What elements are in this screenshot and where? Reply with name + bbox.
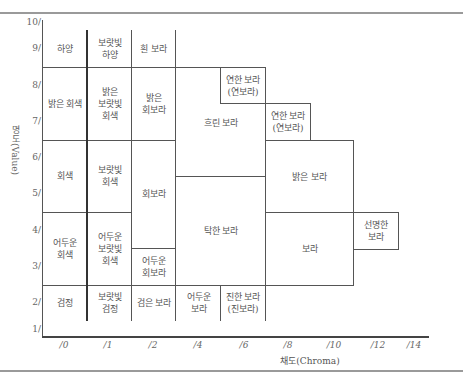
y-tick: 5/ — [14, 188, 41, 198]
x-tick: /8 — [284, 340, 293, 350]
cell-pale-purple-1: 연한 보라 (연보라) — [220, 67, 266, 104]
cell-white: 하양 — [43, 30, 87, 68]
cell-dark-gray: 어두운 회색 — [43, 212, 87, 286]
cell-light-gray: 밝은 회색 — [43, 67, 87, 141]
x-tick: /0 — [60, 340, 69, 350]
cell-light-purple: 밝은 보라 — [265, 140, 354, 213]
cell-whitish-purple: 흰 보라 — [131, 30, 176, 68]
cell-deep-purple: 진한 보라 (진보라) — [220, 285, 266, 321]
y-axis-label: 명도(Value) — [9, 125, 22, 175]
x-tick: /4 — [194, 340, 203, 350]
cell-blackish-purple: 검은 보라 — [131, 285, 176, 321]
y-tick: 7/ — [14, 116, 41, 126]
cell-light-purplish-gray: 밝은 보랏빛 회색 — [86, 67, 131, 141]
x-tick: /2 — [149, 340, 158, 350]
cell-purple: 보라 — [265, 212, 354, 286]
x-tick: /10 — [327, 340, 341, 350]
cell-pale-purple-2: 연한 보라 (연보라) — [265, 103, 311, 141]
cell-purplish-gray: 보랏빛 회색 — [86, 140, 131, 213]
cell-purplish-black: 보랏빛 검정 — [86, 285, 131, 321]
cell-vivid-purple: 선명한 보라 — [353, 212, 399, 250]
y-tick: 9/ — [14, 43, 41, 53]
cell-purplish-white: 보랏빛 하양 — [86, 30, 131, 68]
cell-gray: 회색 — [43, 140, 87, 213]
y-tick: 3/ — [14, 261, 41, 271]
x-tick: /14 — [407, 340, 421, 350]
x-tick: /1 — [104, 340, 113, 350]
x-tick: /12 — [371, 340, 385, 350]
y-tick: 8/ — [14, 80, 41, 90]
cell-dull-purple: 탁한 보라 — [175, 176, 266, 286]
x-axis — [42, 336, 429, 338]
cell-light-grayish-purple: 밝은 회보라 — [131, 67, 176, 141]
y-tick: 2/ — [14, 297, 41, 307]
top-border — [0, 12, 463, 14]
cell-dark-purple: 어두운 보라 — [175, 285, 221, 321]
cell-dark-grayish-purple: 어두운 회보라 — [131, 248, 176, 286]
cell-black: 검정 — [43, 285, 87, 321]
y-tick: 10/ — [14, 17, 41, 27]
y-tick: 4/ — [14, 225, 41, 235]
bottom-border — [0, 370, 463, 372]
x-tick: /6 — [240, 340, 249, 350]
y-tick: 1/ — [14, 324, 41, 334]
cell-grayish-purple: 회보라 — [131, 140, 176, 249]
x-axis-label: 채도(Chroma) — [280, 354, 339, 367]
cell-dark-purplish-gray: 어두운 보랏빛 회색 — [86, 212, 131, 286]
y-tick: 6/ — [14, 152, 41, 162]
